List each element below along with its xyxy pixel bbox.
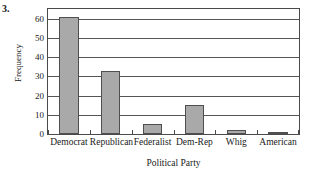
- x-axis-title: Political Party: [47, 158, 300, 169]
- x-tick-mark: [90, 130, 91, 134]
- bar-chart-figure: 3. Frequency 0102030405060 DemocratRepub…: [0, 0, 312, 177]
- x-tick-label: Dem-Rep: [174, 137, 216, 148]
- bar-dem-rep: [185, 105, 204, 134]
- bar-republican: [101, 71, 120, 134]
- plot-inner: [48, 9, 299, 134]
- x-tick-label: Whig: [215, 137, 257, 148]
- x-tick-mark: [215, 130, 216, 134]
- x-tick-label: American: [257, 137, 299, 148]
- x-axis-tick-labels: DemocratRepublicanFederalistDem-RepWhigA…: [47, 137, 300, 151]
- x-tick-mark: [132, 130, 133, 134]
- y-tick-label: 30: [2, 72, 44, 81]
- bar-federalist: [143, 124, 162, 134]
- gridline-60: [48, 19, 299, 20]
- gridline-30: [48, 76, 299, 77]
- gridline-10: [48, 115, 299, 116]
- bar-american: [268, 132, 287, 134]
- plot-area: [47, 8, 300, 135]
- x-tick-label: Republican: [90, 137, 132, 148]
- x-tick-mark: [48, 130, 49, 134]
- y-tick-label: 20: [2, 91, 44, 100]
- x-tick-mark: [174, 130, 175, 134]
- bar-democrat: [59, 17, 78, 134]
- y-tick-label: 10: [2, 110, 44, 119]
- gridline-20: [48, 96, 299, 97]
- y-tick-label: 60: [2, 14, 44, 23]
- gridline-40: [48, 57, 299, 58]
- x-tick-mark: [298, 130, 299, 134]
- y-tick-label: 50: [2, 33, 44, 42]
- y-tick-label: 40: [2, 53, 44, 62]
- y-axis-tick-labels: 0102030405060: [0, 8, 44, 135]
- x-tick-mark: [257, 130, 258, 134]
- y-tick-label: 0: [2, 130, 44, 139]
- bar-whig: [227, 130, 246, 134]
- gridline-50: [48, 38, 299, 39]
- x-tick-label: Democrat: [48, 137, 90, 148]
- x-tick-label: Federalist: [132, 137, 174, 148]
